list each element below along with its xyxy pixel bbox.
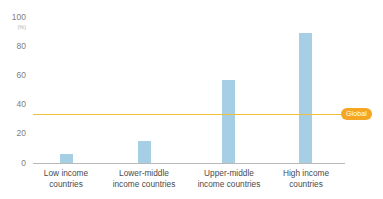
x-label-lower-middle-income-countries: Lower-middle income countries — [101, 168, 187, 190]
y-tick-label-0: 0 — [21, 159, 26, 168]
bar-upper-middle-income-countries — [222, 80, 235, 163]
bar-high-income-countries — [299, 33, 312, 163]
x-label-line-2: income countries — [186, 179, 272, 190]
global-reference-line — [33, 114, 349, 116]
y-tick-label-60: 60 — [17, 71, 26, 80]
y-axis-unit-label: (%) — [17, 25, 26, 31]
x-label-upper-middle-income-countries: Upper-middle income countries — [186, 168, 272, 190]
y-tick-label-100: 100 — [12, 13, 26, 22]
x-label-line-1: Upper-middle — [204, 168, 254, 178]
x-axis-labels: Low income countries Lower-middle income… — [0, 168, 383, 199]
plot-area — [33, 17, 345, 163]
x-label-low-income-countries: Low income countries — [26, 168, 106, 190]
y-tick-label-40: 40 — [17, 100, 26, 109]
bar-low-income-countries — [60, 154, 73, 163]
x-label-line-2: income countries — [101, 179, 187, 190]
bar-chart: 100 (%) 80 60 40 20 0 Global Low income … — [0, 0, 383, 199]
y-tick-label-80: 80 — [17, 42, 26, 51]
bar-lower-middle-income-countries — [138, 141, 151, 163]
x-label-line-2: countries — [26, 179, 106, 190]
global-reference-badge: Global — [341, 108, 372, 120]
x-label-line-1: Lower-middle — [119, 168, 169, 178]
x-label-line-1: High income — [283, 168, 329, 178]
x-label-line-2: countries — [268, 179, 344, 190]
x-label-high-income-countries: High income countries — [268, 168, 344, 190]
x-axis-baseline — [33, 163, 345, 164]
y-tick-label-20: 20 — [17, 129, 26, 138]
x-label-line-1: Low income — [44, 168, 88, 178]
